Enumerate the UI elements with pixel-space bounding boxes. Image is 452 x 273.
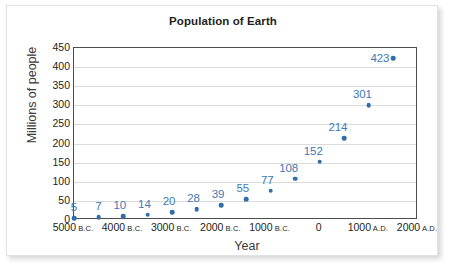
data-point[interactable] <box>268 188 273 193</box>
y-tick-label: 400 <box>40 60 70 72</box>
data-point[interactable] <box>121 214 126 219</box>
y-tick-label: 350 <box>40 79 70 91</box>
y-tick-label: 100 <box>40 175 70 187</box>
x-tick-label: 1000 B.C. <box>249 221 290 233</box>
data-point-label: 108 <box>279 162 298 174</box>
data-point-label: 301 <box>353 88 372 100</box>
data-point-label: 77 <box>261 174 274 186</box>
x-tick-label: 0 <box>316 221 322 233</box>
data-point-label: 10 <box>114 199 127 211</box>
x-tick-label: 1000 A.D. <box>348 221 388 233</box>
data-point[interactable] <box>317 160 322 165</box>
data-point-label: 152 <box>304 145 323 157</box>
y-tick-label: 250 <box>40 117 70 129</box>
data-point[interactable] <box>72 216 77 221</box>
data-point-label: 5 <box>71 201 77 213</box>
x-tick-label: 4000 B.C. <box>102 221 143 233</box>
data-point[interactable] <box>96 215 101 220</box>
x-tick-era: B.C. <box>273 224 290 233</box>
x-tick-era: B.C. <box>76 224 93 233</box>
x-axis-tick-labels: 5000 B.C.4000 B.C.3000 B.C.2000 B.C.1000… <box>73 221 417 237</box>
data-point[interactable] <box>244 197 249 202</box>
data-point[interactable] <box>391 56 396 61</box>
y-tick-label: 50 <box>40 194 70 206</box>
y-tick-label: 200 <box>40 137 70 149</box>
data-point-label: 28 <box>187 192 200 204</box>
chart-title: Population of Earth <box>7 15 439 27</box>
data-point[interactable] <box>145 212 150 217</box>
x-tick-era: A.D. <box>420 224 437 233</box>
y-tick-label: 300 <box>40 98 70 110</box>
y-tick-label: 450 <box>40 41 70 53</box>
x-tick-era: B.C. <box>174 224 191 233</box>
x-tick-label: 3000 B.C. <box>151 221 192 233</box>
data-point[interactable] <box>195 207 200 212</box>
data-point-label: 7 <box>95 200 101 212</box>
plot-area: 5710142028395577108152214301423 <box>73 47 417 219</box>
x-tick-label: 5000 B.C. <box>53 221 94 233</box>
data-point-label: 14 <box>138 198 151 210</box>
data-point-label: 55 <box>236 182 249 194</box>
data-point[interactable] <box>219 203 224 208</box>
x-axis-title: Year <box>67 239 427 253</box>
data-points-layer: 5710142028395577108152214301423 <box>74 48 416 218</box>
data-point[interactable] <box>170 210 175 215</box>
x-tick-era: B.C. <box>223 224 240 233</box>
data-point-label: 39 <box>212 188 225 200</box>
chart-card: Population of Earth Millions of people 0… <box>6 5 438 256</box>
x-tick-era: A.D. <box>371 224 388 233</box>
x-tick-era: B.C. <box>125 224 142 233</box>
data-point[interactable] <box>293 176 298 181</box>
y-axis-tick-labels: 050100150200250300350400450 <box>37 47 70 219</box>
x-tick-label: 2000 B.C. <box>200 221 241 233</box>
data-point-label: 214 <box>328 121 347 133</box>
data-point-label: 423 <box>371 52 390 64</box>
data-point[interactable] <box>342 136 347 141</box>
x-tick-label: 2000 A.D. <box>397 221 437 233</box>
data-point[interactable] <box>367 103 372 108</box>
data-point-label: 20 <box>163 195 176 207</box>
y-tick-label: 150 <box>40 156 70 168</box>
